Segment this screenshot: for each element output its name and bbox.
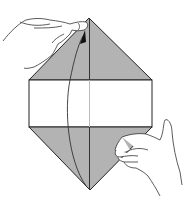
middle-white-band — [29, 80, 152, 127]
origami-diagram — [0, 0, 194, 211]
